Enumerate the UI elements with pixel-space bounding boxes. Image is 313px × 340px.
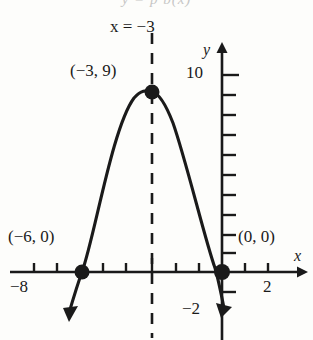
axis-of-symmetry-label: x = −3	[110, 18, 155, 35]
x-tick-label-2: 2	[263, 278, 272, 295]
left-intercept-point	[75, 265, 90, 280]
parabola-curve	[69, 91, 224, 313]
right-branch-arrowhead	[216, 303, 232, 318]
left-branch-arrowhead	[63, 306, 78, 322]
left-intercept-label: (−6, 0)	[8, 228, 54, 245]
x-axis	[10, 267, 308, 278]
x-tick-label-neg8: −8	[10, 278, 28, 295]
vertex-point	[145, 85, 160, 100]
y-tick-label-neg2: −2	[182, 300, 200, 317]
vertex-label: (−3, 9)	[70, 62, 116, 79]
y-axis-label: y	[203, 42, 210, 58]
x-axis-label: x	[294, 248, 301, 264]
right-intercept-point	[214, 264, 230, 280]
right-intercept-label: (0, 0)	[238, 228, 275, 245]
y-axis-ticks	[222, 75, 239, 292]
y-tick-label-10: 10	[186, 64, 203, 81]
